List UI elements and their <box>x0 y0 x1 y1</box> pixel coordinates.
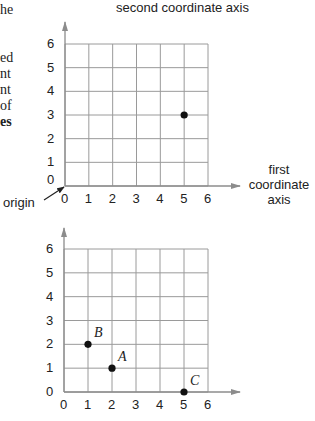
x-axis-title-line: first <box>244 162 314 177</box>
data-point <box>108 365 115 372</box>
x-tick-label: 2 <box>109 191 116 206</box>
x-tick-label: 0 <box>61 191 68 206</box>
y-tick-label: 5 <box>47 60 54 75</box>
x-tick-label: 4 <box>156 191 163 206</box>
data-point <box>181 111 188 118</box>
x-tick-label: 3 <box>133 191 140 206</box>
x-tick-label: 1 <box>85 191 92 206</box>
data-point <box>180 388 187 395</box>
y-tick-label: 6 <box>47 36 54 51</box>
point-label: B <box>94 325 103 340</box>
y-tick-label: 2 <box>46 336 53 351</box>
y-tick-label: 4 <box>46 289 53 304</box>
data-point <box>84 341 91 348</box>
y-tick-label: 3 <box>46 313 53 328</box>
y-tick-label: 6 <box>46 241 53 256</box>
y-tick-label: 0 <box>46 384 53 399</box>
point-label: A <box>117 349 127 364</box>
x-axis-title: first coordinate axis <box>244 162 314 207</box>
x-tick-label: 4 <box>156 397 163 412</box>
y-tick-label: 1 <box>47 154 54 169</box>
x-tick-label: 3 <box>132 397 139 412</box>
y-tick-label: 1 <box>46 360 53 375</box>
point-label: C <box>190 373 200 388</box>
x-tick-label: 5 <box>180 397 187 412</box>
x-tick-label: 1 <box>84 397 91 412</box>
y-tick-label: 5 <box>46 265 53 280</box>
y-tick-label: 4 <box>47 83 54 98</box>
x-tick-label: 2 <box>108 397 115 412</box>
y-tick-label: 3 <box>47 107 54 122</box>
x-axis-title-line: coordinate <box>244 177 314 192</box>
x-axis-title-line: axis <box>244 192 314 207</box>
y-axis-title: second coordinate axis <box>116 0 249 15</box>
y-tick-label: 2 <box>47 131 54 146</box>
x-tick-label: 6 <box>204 397 211 412</box>
y-tick-label: 0 <box>47 172 54 187</box>
origin-label: origin <box>3 195 35 210</box>
x-tick-label: 0 <box>60 397 67 412</box>
x-tick-label: 5 <box>180 191 187 206</box>
x-tick-label: 6 <box>204 191 211 206</box>
